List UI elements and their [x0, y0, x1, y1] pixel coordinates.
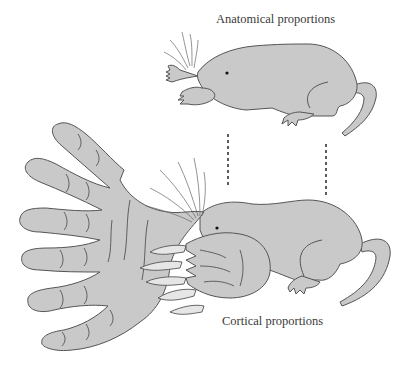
mole-illustration	[0, 0, 407, 382]
mole-anatomical	[164, 32, 376, 136]
cortical-proportions-label: Cortical proportions	[222, 314, 323, 329]
figure: Anatomical proportions Cortical proporti…	[0, 0, 407, 382]
mole-cortical	[20, 123, 391, 351]
anatomical-proportions-label: Anatomical proportions	[216, 12, 335, 27]
dashed-connectors	[228, 134, 326, 198]
